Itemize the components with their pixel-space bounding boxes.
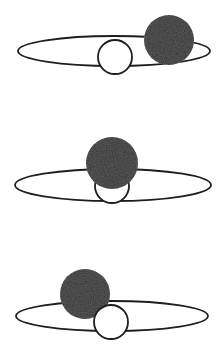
diagram-svg [0,0,220,346]
stage-2-panel [15,137,211,203]
stage-3-panel [16,269,208,339]
orbit-diagram [0,0,220,346]
dark-planet [86,137,138,189]
dark-planet [144,15,194,65]
light-disk [98,40,132,74]
stage-1-panel [18,15,210,74]
light-disk [94,305,128,339]
